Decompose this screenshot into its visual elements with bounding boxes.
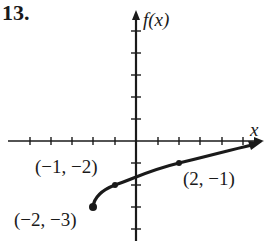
graph: f(x) x (−1, −2) (2, −1) (−2, −3) [0, 0, 266, 241]
point-dot [176, 160, 182, 166]
point-label: (−2, −3) [14, 209, 77, 231]
endpoint-dot [89, 203, 97, 211]
y-axis-arrow-icon [132, 10, 140, 20]
point-label: (2, −1) [183, 168, 235, 190]
y-axis-label: f(x) [143, 9, 169, 31]
point-dot [112, 182, 118, 188]
x-axis-label: x [249, 119, 259, 140]
curve-arrow-icon [248, 141, 262, 150]
point-label: (−1, −2) [35, 156, 98, 178]
